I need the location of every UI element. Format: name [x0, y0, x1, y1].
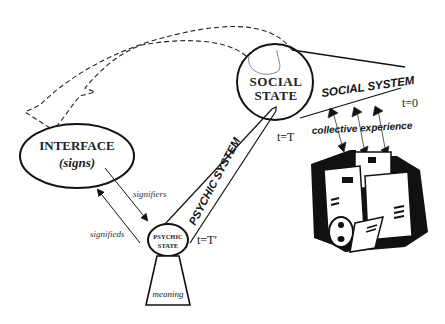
psychic-system-label: PSYCHIC SYSTEM	[186, 135, 243, 227]
social-state-label-line2: STATE	[254, 88, 297, 103]
interface-label: INTERFACE	[39, 138, 115, 153]
psychic-state-label-line2: STATE	[158, 242, 178, 249]
social-state-label-line1: SOCIAL	[250, 74, 303, 89]
time-label-tT: t=T	[277, 130, 295, 144]
signifieds-label: signifieds	[90, 229, 125, 239]
buildings-icon	[311, 150, 428, 252]
signifiers-label: signifiers	[133, 189, 167, 199]
meaning-label: meaning	[153, 289, 184, 299]
psychic-state-label-line1: PSYCHIC	[153, 233, 183, 240]
time-label-t0: t=0	[402, 96, 418, 110]
semiotic-systems-diagram: SOCIAL STATE INTERFACE (signs) PSYCHIC S…	[0, 0, 445, 324]
time-label-tTprime: t=T′	[197, 233, 217, 247]
psychic-state-node	[148, 224, 188, 256]
collective-experience-label: collective experience	[312, 120, 413, 136]
interface-sublabel: (signs)	[59, 155, 95, 170]
inner-arc	[249, 50, 280, 74]
